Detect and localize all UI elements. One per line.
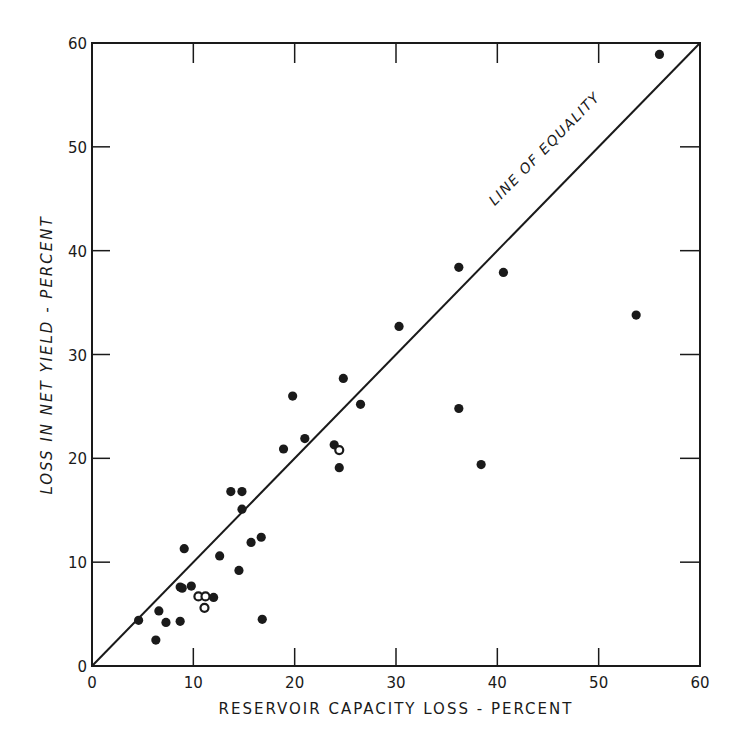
data-point	[356, 400, 365, 409]
line-of-equality	[92, 43, 700, 666]
data-point	[180, 544, 189, 553]
x-tick-label: 10	[184, 674, 203, 692]
data-point	[279, 444, 288, 453]
data-point	[237, 505, 246, 514]
y-tick-label: 30	[68, 347, 87, 365]
data-point	[258, 615, 267, 624]
x-tick-label: 30	[386, 674, 405, 692]
data-point	[339, 374, 348, 383]
y-tick-label: 60	[68, 35, 87, 53]
x-tick-label: 20	[285, 674, 304, 692]
y-tick-label: 0	[77, 658, 87, 676]
x-tick-label: 40	[488, 674, 507, 692]
data-point	[454, 404, 463, 413]
x-tick-labels: 0102030405060	[87, 674, 709, 692]
data-point	[394, 322, 403, 331]
y-tick-label: 10	[68, 554, 87, 572]
y-axis-title: LOSS IN NET YIELD - PERCENT	[38, 215, 56, 494]
data-point	[454, 263, 463, 272]
y-tick-labels: 0102030405060	[68, 35, 87, 676]
data-points	[134, 50, 664, 645]
data-point	[161, 618, 170, 627]
data-point	[176, 617, 185, 626]
x-tick-label: 50	[589, 674, 608, 692]
data-point	[237, 487, 246, 496]
data-point	[257, 533, 266, 542]
data-point	[477, 460, 486, 469]
equality-line	[92, 43, 700, 666]
data-point-open	[335, 446, 343, 454]
y-tick-label: 50	[68, 139, 87, 157]
data-point	[632, 310, 641, 319]
data-point	[154, 606, 163, 615]
data-point-open	[201, 592, 209, 600]
data-point	[178, 584, 187, 593]
y-tick-label: 20	[68, 450, 87, 468]
data-point	[300, 434, 309, 443]
data-point	[655, 50, 664, 59]
data-point	[246, 538, 255, 547]
data-point-open	[200, 604, 208, 612]
data-point	[134, 616, 143, 625]
data-point	[234, 566, 243, 575]
x-axis-title: RESERVOIR CAPACITY LOSS - PERCENT	[219, 700, 574, 718]
data-point	[187, 581, 196, 590]
data-point	[151, 635, 160, 644]
x-tick-label: 60	[690, 674, 709, 692]
y-tick-label: 40	[68, 243, 87, 261]
data-point	[335, 463, 344, 472]
scatter-chart: 0102030405060 0102030405060 LINE OF EQUA…	[0, 0, 741, 738]
x-tick-label: 0	[87, 674, 97, 692]
data-point	[288, 391, 297, 400]
data-point	[226, 487, 235, 496]
line-of-equality-label: LINE OF EQUALITY	[486, 89, 604, 209]
data-point	[215, 551, 224, 560]
data-point	[499, 268, 508, 277]
